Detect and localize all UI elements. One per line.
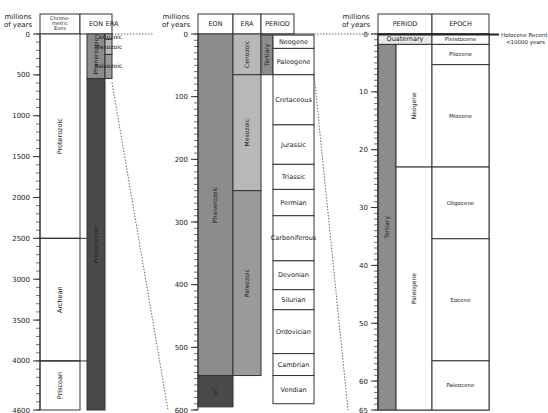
column-header: PERIOD bbox=[393, 20, 418, 28]
era-band-label: Cenozoic bbox=[95, 33, 122, 40]
epoch-band-label: Pliocene bbox=[449, 51, 473, 57]
tick-label: 10 bbox=[359, 88, 368, 96]
tick-label: 500 bbox=[175, 344, 188, 352]
tick-label: 200 bbox=[175, 156, 188, 164]
epoch-band-label: Paleocene bbox=[447, 382, 476, 388]
epoch-band-label: Oligocene bbox=[447, 200, 475, 207]
eon-band-label: Phanerozoic bbox=[212, 187, 219, 223]
tick-label: 4600 bbox=[12, 407, 30, 413]
epoch-band-label: Pleistocene bbox=[445, 36, 477, 42]
eon-band-label: Precambrian bbox=[92, 225, 99, 263]
geologic-time-scale: Chrono-metricEonsEONERAProterozoicArchea… bbox=[0, 0, 548, 413]
tick-label: 4000 bbox=[12, 357, 30, 365]
chronometric-eon-label: Archean bbox=[56, 286, 64, 313]
era-band-label: Paleozoic bbox=[95, 62, 123, 69]
epoch-band-label: Miocene bbox=[449, 113, 473, 119]
tick-label: 400 bbox=[175, 281, 188, 289]
subperiod-band-label: Tertiary bbox=[263, 43, 271, 67]
period-band-label: Neogene bbox=[279, 38, 308, 46]
axis-label-line1: millions bbox=[5, 13, 32, 21]
period-band-label: Vendian bbox=[280, 386, 306, 394]
axis-label-line2: of years bbox=[342, 21, 371, 29]
tick-label: 100 bbox=[175, 93, 188, 101]
column-header: Eons bbox=[54, 25, 66, 31]
period-band-label: Paleogene bbox=[277, 58, 311, 66]
tick-label: 65 bbox=[359, 407, 368, 413]
tick-label: 0 bbox=[364, 31, 368, 39]
column-header: EON bbox=[208, 20, 222, 28]
subperiod-band-label: Paleogene bbox=[410, 273, 418, 304]
period-band-label: Jurassic bbox=[280, 141, 306, 149]
annotation-holocene: Holocene Recent bbox=[501, 32, 548, 38]
tick-label: 2500 bbox=[12, 235, 30, 243]
connector-bottom bbox=[112, 83, 168, 410]
annotation-holocene-age: <10000 years bbox=[506, 39, 545, 46]
tick-label: 3000 bbox=[12, 276, 30, 284]
tick-label: 3500 bbox=[12, 317, 30, 325]
column-header: ERA bbox=[106, 20, 119, 28]
chronometric-eon-label: Proterozoic bbox=[56, 118, 64, 155]
tick-label: 50 bbox=[359, 320, 368, 328]
column-header: EON bbox=[89, 20, 103, 28]
tick-label: 0 bbox=[26, 31, 30, 39]
tick-label: 500 bbox=[17, 71, 30, 79]
tick-label: 2000 bbox=[12, 194, 30, 202]
period-band-label: Triassic bbox=[281, 173, 306, 181]
period-band-label: Carboniferous bbox=[271, 234, 317, 242]
period-band-label: Cambrian bbox=[278, 361, 310, 369]
period-band-label: Silurian bbox=[281, 296, 305, 304]
tick-label: 30 bbox=[359, 204, 368, 212]
chronometric-eon-label: Priscoan bbox=[56, 372, 64, 399]
period-band-label: Ordovician bbox=[276, 328, 311, 336]
era-band-label: Mesozoic bbox=[243, 119, 250, 146]
axis-label-line1: millions bbox=[343, 13, 370, 21]
era-band-label: Cenozoic bbox=[243, 41, 250, 68]
tick-label: 40 bbox=[359, 262, 368, 270]
tick-label: 20 bbox=[359, 146, 368, 154]
period-band-label: Devonian bbox=[278, 271, 309, 279]
era-band-label: Paleozoic bbox=[243, 269, 250, 297]
tick-label: 1000 bbox=[12, 112, 30, 120]
period-band-label: Permian bbox=[280, 199, 307, 207]
axis-label-line1: millions bbox=[163, 13, 190, 21]
axis-label-line2: of years bbox=[4, 21, 33, 29]
axis-label-line2: of years bbox=[162, 21, 191, 29]
period-band-label: Cretaceous bbox=[275, 96, 312, 104]
era-band-label: Mesozoic bbox=[95, 43, 122, 50]
column-header: ERA bbox=[241, 20, 254, 28]
period-band-label: Quaternary bbox=[387, 35, 424, 43]
column-header: EPOCH bbox=[449, 20, 472, 28]
connector-bottom-2 bbox=[314, 75, 348, 410]
epoch-band-label: Eocene bbox=[450, 297, 471, 303]
subperiod-band-label: Neogene bbox=[410, 92, 418, 119]
eon-band-label: pC bbox=[212, 387, 220, 395]
column-header: PERIOD bbox=[265, 20, 290, 28]
tick-label: 300 bbox=[175, 219, 188, 227]
period-band-label: Tertiary bbox=[383, 216, 391, 240]
tick-label: 600 bbox=[175, 407, 188, 413]
tick-label: 1500 bbox=[12, 153, 30, 161]
tick-label: 60 bbox=[359, 378, 368, 386]
tick-label: 0 bbox=[184, 31, 188, 39]
